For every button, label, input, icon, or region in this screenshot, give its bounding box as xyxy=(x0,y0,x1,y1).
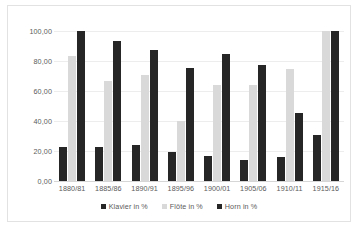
bar xyxy=(322,31,330,181)
bar xyxy=(258,65,266,181)
bar-group xyxy=(127,31,163,181)
bar xyxy=(222,54,230,181)
legend-label: Flöte in % xyxy=(170,202,203,211)
bar-group xyxy=(90,31,126,181)
x-axis-tick-label: 1895/96 xyxy=(163,184,199,196)
legend-swatch-icon xyxy=(162,204,167,209)
bar xyxy=(113,41,121,181)
legend-swatch-icon xyxy=(217,204,222,209)
bar-group xyxy=(54,31,90,181)
bar xyxy=(313,135,321,181)
bar xyxy=(249,85,257,181)
legend-swatch-icon xyxy=(101,204,106,209)
legend-label: Horn in % xyxy=(225,202,257,211)
legend-item[interactable]: Flöte in % xyxy=(162,202,203,211)
bar xyxy=(286,69,294,182)
bar xyxy=(59,147,67,181)
bar xyxy=(331,31,339,181)
y-axis-tick-label: 20,00 xyxy=(16,147,52,156)
legend-item[interactable]: Klavier in % xyxy=(101,202,148,211)
bar xyxy=(68,56,76,181)
plot-area xyxy=(54,31,344,181)
x-axis-tick-label: 1905/06 xyxy=(235,184,271,196)
bar-group xyxy=(308,31,344,181)
bar-groups xyxy=(54,31,344,181)
bar xyxy=(295,113,303,181)
bar xyxy=(168,152,176,181)
chart-frame: 100,0080,0060,0040,0020,000,00 1880/8118… xyxy=(7,5,351,222)
x-axis-tick-label: 1900/01 xyxy=(199,184,235,196)
x-axis: 1880/811885/861890/911895/961900/011905/… xyxy=(54,184,344,196)
x-axis-tick-label: 1885/86 xyxy=(90,184,126,196)
bar-group xyxy=(163,31,199,181)
bar-group xyxy=(199,31,235,181)
y-axis-tick-label: 100,00 xyxy=(16,27,52,36)
axis-baseline xyxy=(54,181,344,182)
chart-legend: Klavier in %Flöte in %Horn in % xyxy=(8,202,350,211)
bar-group xyxy=(235,31,271,181)
x-axis-tick-label: 1880/81 xyxy=(54,184,90,196)
bar xyxy=(186,68,194,181)
legend-item[interactable]: Horn in % xyxy=(217,202,257,211)
x-axis-tick-label: 1890/91 xyxy=(127,184,163,196)
bar xyxy=(141,75,149,181)
y-axis-tick-label: 80,00 xyxy=(16,57,52,66)
x-axis-tick-label: 1910/11 xyxy=(272,184,308,196)
legend-label: Klavier in % xyxy=(109,202,148,211)
y-axis-tick-label: 0,00 xyxy=(16,177,52,186)
x-axis-tick-label: 1915/16 xyxy=(308,184,344,196)
bar xyxy=(150,50,158,181)
chart-plot-wrapper: 100,0080,0060,0040,0020,000,00 1880/8118… xyxy=(8,6,350,221)
bar xyxy=(204,156,212,182)
bar xyxy=(132,145,140,181)
bar xyxy=(95,147,103,182)
bar xyxy=(277,157,285,181)
bar xyxy=(240,160,248,181)
bar-group xyxy=(272,31,308,181)
bar xyxy=(77,31,85,181)
y-axis-tick-label: 60,00 xyxy=(16,87,52,96)
bar xyxy=(177,121,185,181)
bar xyxy=(104,81,112,181)
y-axis-tick-label: 40,00 xyxy=(16,117,52,126)
bar xyxy=(213,85,221,181)
y-axis: 100,0080,0060,0040,0020,000,00 xyxy=(12,6,52,221)
